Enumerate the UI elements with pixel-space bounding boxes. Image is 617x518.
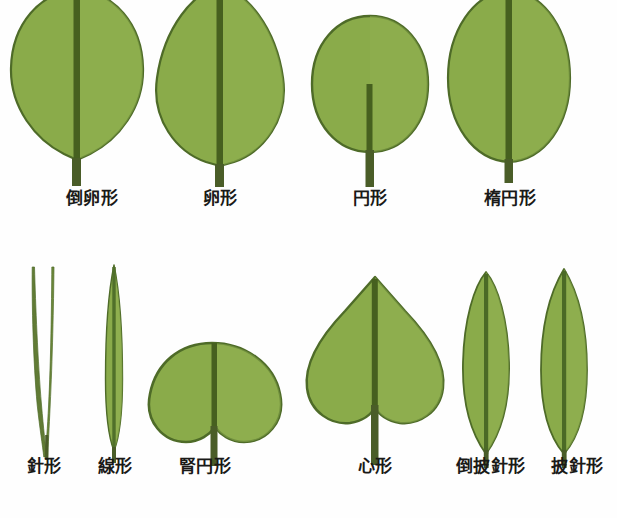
- leaf-figure-oblanceolate: [450, 268, 522, 468]
- leaf-shapes-figure: 倒卵形 卵形 円形 楕円形: [0, 0, 617, 518]
- leaf-figure-elliptic: [437, 0, 582, 183]
- leaf-figure-cordate: [300, 273, 450, 465]
- leaf-label-elliptic: 楕円形: [470, 190, 550, 207]
- leaf-figure-lanceolate: [528, 266, 600, 468]
- leaf-label-oblanceolate: 倒披針形: [443, 458, 538, 475]
- leaf-cordate-icon: [300, 273, 450, 465]
- leaf-label-reniform: 腎円形: [165, 458, 245, 475]
- leaf-label-ovate: 卵形: [185, 190, 255, 207]
- leaf-figure-acicular: [20, 265, 90, 460]
- leaf-figure-linear: [88, 263, 140, 463]
- leaf-linear-icon: [88, 263, 140, 463]
- leaf-label-lanceolate: 披針形: [540, 458, 615, 475]
- leaf-figure-obovate: [2, 0, 152, 186]
- leaf-label-obovate: 倒卵形: [57, 190, 127, 207]
- leaf-ovate-icon: [145, 0, 295, 187]
- leaf-oblanceolate-icon: [450, 268, 522, 468]
- leaf-reniform-icon: [140, 338, 290, 466]
- leaf-orbicular-icon: [305, 12, 435, 187]
- leaf-figure-ovate: [145, 0, 295, 187]
- leaf-acicular-icon: [20, 265, 90, 460]
- leaf-label-cordate: 心形: [340, 458, 410, 475]
- leaf-figure-reniform: [140, 338, 290, 466]
- leaf-label-acicular: 針形: [14, 458, 74, 475]
- leaf-obovate-icon: [2, 0, 152, 186]
- leaf-elliptic-icon: [437, 0, 582, 183]
- leaf-label-orbicular: 円形: [335, 190, 405, 207]
- leaf-figure-orbicular: [305, 12, 435, 187]
- leaf-label-linear: 線形: [85, 458, 145, 475]
- leaf-lanceolate-icon: [528, 266, 600, 468]
